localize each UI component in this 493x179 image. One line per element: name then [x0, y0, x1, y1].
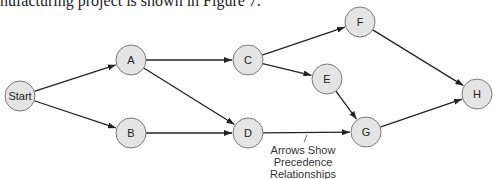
node-b: B	[116, 118, 146, 148]
node-label: B	[127, 127, 134, 139]
node-label: G	[362, 126, 371, 138]
node-start: Start	[5, 81, 35, 111]
node-c: C	[233, 45, 263, 75]
edge-e-to-g	[336, 91, 357, 119]
node-label: F	[357, 16, 364, 28]
node-f: F	[345, 7, 375, 37]
edge-d-to-g	[263, 132, 350, 133]
annotation-line-2: Precedence	[274, 156, 333, 168]
edge-c-to-e	[263, 64, 312, 76]
precedence-network-diagram: StartABCDEFGH Arrows Show Precedence Rel…	[0, 0, 493, 179]
edge-c-to-f	[262, 27, 345, 55]
node-label: H	[473, 88, 481, 100]
node-label: D	[244, 127, 252, 139]
edge-start-to-a	[34, 65, 116, 91]
annotation-leader-line	[304, 135, 307, 142]
edge-f-to-h	[373, 30, 464, 86]
node-label: E	[323, 73, 330, 85]
node-h: H	[462, 79, 492, 109]
edge-g-to-h	[380, 99, 462, 127]
annotation-line-3: Relationships	[270, 168, 337, 179]
node-a: A	[116, 45, 146, 75]
annotation-line-1: Arrows Show	[271, 144, 336, 156]
node-label: Start	[8, 90, 31, 102]
edge-start-to-b	[34, 101, 116, 128]
node-d: D	[233, 118, 263, 148]
edges-layer	[34, 27, 463, 133]
node-label: A	[127, 54, 135, 66]
node-e: E	[312, 64, 342, 94]
edge-a-to-d	[144, 68, 235, 125]
node-g: G	[351, 117, 381, 147]
node-label: C	[244, 54, 252, 66]
annotation: Arrows Show Precedence Relationships	[270, 135, 337, 179]
